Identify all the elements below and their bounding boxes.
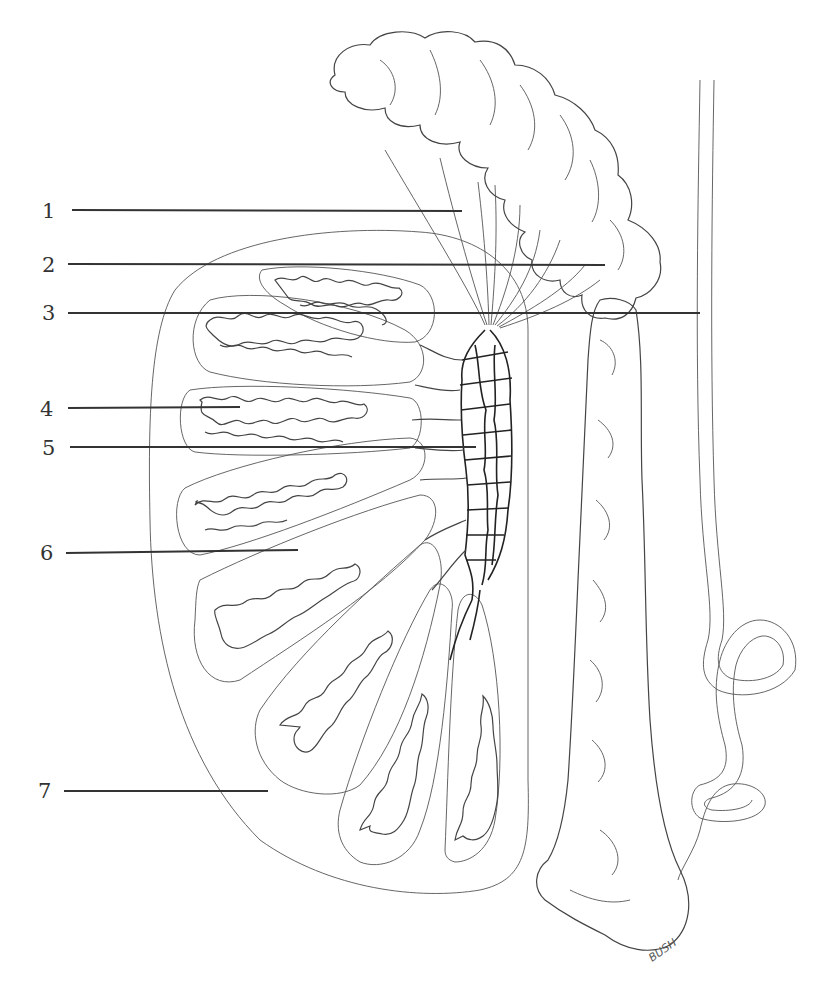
- epididymis-body-texture: [570, 340, 630, 902]
- leader-lines: [64, 210, 700, 791]
- leader-line-4: [68, 407, 240, 408]
- label-3: 3: [42, 301, 55, 325]
- seminiferous-tubules: [195, 276, 498, 840]
- vas-deferens: [678, 80, 796, 880]
- epididymis-body: [537, 298, 689, 950]
- leader-line-6: [66, 550, 298, 553]
- leader-line-2: [68, 264, 605, 265]
- lobule-6: [255, 543, 441, 794]
- lobule-5: [194, 495, 435, 682]
- label-6: 6: [40, 541, 53, 565]
- straight-tubules: [412, 345, 466, 590]
- epididymis-head-lobule-lines: [380, 50, 624, 270]
- efferent-ductules: [385, 150, 600, 328]
- label-4: 4: [40, 397, 53, 421]
- artist-signature: BUSH: [646, 936, 679, 964]
- lobule-7: [338, 584, 452, 865]
- epididymis-head: [330, 32, 660, 319]
- rete-testis: [450, 330, 512, 660]
- testis-diagram: 1 2 3 4 5 6 7 BUSH: [0, 0, 826, 1000]
- lobule-4: [177, 438, 425, 555]
- leader-line-1: [72, 210, 462, 211]
- number-labels: 1 2 3 4 5 6 7: [38, 199, 55, 803]
- label-7: 7: [38, 779, 51, 803]
- label-5: 5: [42, 436, 55, 460]
- label-2: 2: [42, 253, 55, 277]
- label-1: 1: [42, 199, 55, 223]
